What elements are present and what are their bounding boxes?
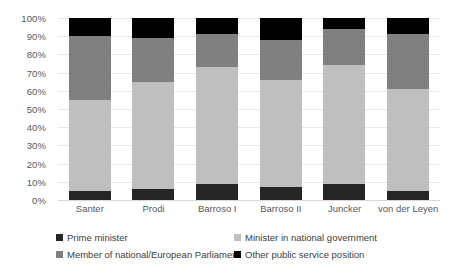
y-axis: 0%10%20%30%40%50%60%70%80%90%100% <box>0 18 52 200</box>
legend-label: Other public service position <box>245 249 364 260</box>
y-axis-tick-label: 10% <box>27 176 46 187</box>
bar-column <box>69 18 111 200</box>
x-axis-tick-label: Barroso II <box>249 203 313 214</box>
y-axis-tick-label: 30% <box>27 140 46 151</box>
legend-row: Member of national/European ParliamentOt… <box>56 246 406 263</box>
y-axis-tick-label: 0% <box>32 195 46 206</box>
legend-row: Prime ministerMinister in national gover… <box>56 229 406 246</box>
bar-segment <box>260 80 302 187</box>
bar-column <box>196 18 238 200</box>
legend-swatch-icon <box>56 251 63 258</box>
x-axis-tick-label: von der Leyen <box>376 203 440 214</box>
x-axis-tick-label: Prodi <box>122 203 186 214</box>
y-axis-tick-label: 60% <box>27 85 46 96</box>
y-axis-tick-label: 20% <box>27 158 46 169</box>
bar-segment <box>323 65 365 183</box>
y-axis-tick-label: 70% <box>27 67 46 78</box>
legend-label: Minister in national government <box>245 232 377 243</box>
y-axis-tick-label: 80% <box>27 49 46 60</box>
bar-segment <box>387 34 429 89</box>
legend-label: Member of national/European Parliament <box>67 249 240 260</box>
bar-segment <box>323 184 365 200</box>
legend-item[interactable]: Prime minister <box>56 232 234 243</box>
bar-segment <box>196 184 238 200</box>
chart-legend: Prime ministerMinister in national gover… <box>56 229 406 263</box>
bar-segment <box>323 18 365 29</box>
bar-segment <box>69 100 111 191</box>
bar-group <box>58 18 440 200</box>
bar-column <box>387 18 429 200</box>
legend-item[interactable]: Member of national/European Parliament <box>56 249 234 260</box>
bar-segment <box>132 82 174 189</box>
bar-segment <box>69 191 111 200</box>
x-axis-tick-label: Santer <box>58 203 122 214</box>
y-axis-tick-label: 40% <box>27 122 46 133</box>
bar-segment <box>387 191 429 200</box>
y-axis-tick-label: 100% <box>21 13 46 24</box>
bar-segment <box>260 40 302 80</box>
bar-segment <box>323 29 365 65</box>
legend-label: Prime minister <box>67 232 128 243</box>
bar-column <box>132 18 174 200</box>
bar-segment <box>260 18 302 40</box>
stacked-bar-chart: 0%10%20%30%40%50%60%70%80%90%100% Santer… <box>0 0 452 274</box>
gridline <box>58 200 440 201</box>
bar-segment <box>260 187 302 200</box>
plot-area <box>58 18 440 200</box>
bar-segment <box>132 18 174 38</box>
y-axis-tick-label: 50% <box>27 104 46 115</box>
bar-segment <box>387 18 429 34</box>
legend-swatch-icon <box>56 234 63 241</box>
bar-segment <box>69 36 111 100</box>
x-axis: SanterProdiBarroso IBarroso IIJunckervon… <box>58 203 440 221</box>
legend-swatch-icon <box>234 234 241 241</box>
bar-segment <box>387 89 429 191</box>
bar-column <box>323 18 365 200</box>
y-axis-tick-label: 90% <box>27 31 46 42</box>
bar-segment <box>196 18 238 34</box>
bar-segment <box>69 18 111 36</box>
legend-swatch-icon <box>234 251 241 258</box>
legend-item[interactable]: Other public service position <box>234 249 364 260</box>
x-axis-tick-label: Juncker <box>313 203 377 214</box>
bar-segment <box>132 38 174 82</box>
bar-column <box>260 18 302 200</box>
legend-item[interactable]: Minister in national government <box>234 232 377 243</box>
bar-segment <box>132 189 174 200</box>
bar-segment <box>196 67 238 183</box>
bar-segment <box>196 34 238 67</box>
x-axis-tick-label: Barroso I <box>185 203 249 214</box>
